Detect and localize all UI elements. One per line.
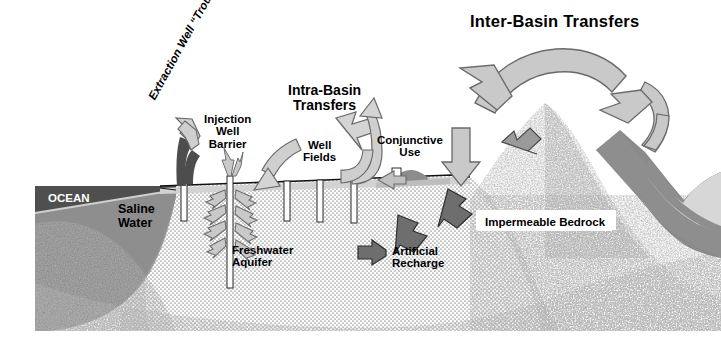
label-saline-water: Saline Water <box>118 203 155 230</box>
diagram-root: Inter-Basin Transfers Intra-Basin Transf… <box>0 0 721 348</box>
label-well-fields: Well Fields <box>303 139 336 164</box>
label-conjunctive-use: Conjunctive Use <box>377 134 443 159</box>
label-freshwater-aquifer: Freshwater Aquifer <box>232 244 293 269</box>
label-intra-basin-transfers: Intra-Basin Transfers <box>288 83 361 113</box>
extraction-well-arrow-icon <box>176 118 200 186</box>
label-artificial-recharge: Artificial Recharge <box>392 245 444 270</box>
label-inter-basin-transfers: Inter-Basin Transfers <box>470 13 639 31</box>
inter-basin-left-arc-arrow-icon <box>460 49 626 113</box>
hydrogeology-cross-section <box>0 0 721 348</box>
label-impermeable-bedrock: Impermeable Bedrock <box>478 213 612 231</box>
label-injection-well-barrier: Injection Well Barrier <box>204 113 251 150</box>
label-ocean: OCEAN <box>48 192 90 204</box>
